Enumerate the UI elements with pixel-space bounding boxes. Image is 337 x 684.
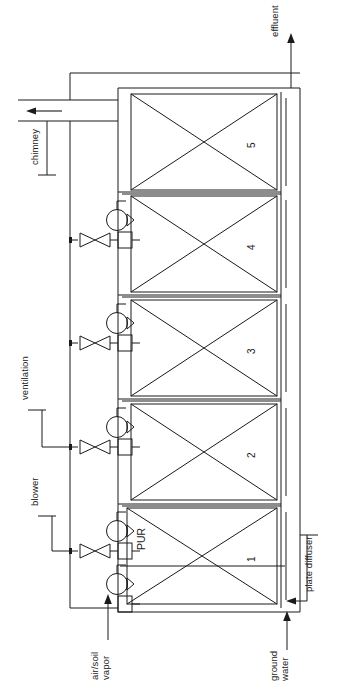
label-tank-4-number: 4 bbox=[246, 244, 257, 250]
label-effluent: effluent bbox=[269, 5, 280, 37]
label-ground-water-line2: water bbox=[279, 657, 290, 682]
header-tap-4 bbox=[69, 237, 72, 243]
label-chimney: chimney bbox=[29, 129, 40, 165]
label-tank-2-number: 2 bbox=[246, 452, 257, 458]
header-tap-3 bbox=[69, 340, 72, 346]
process-flow-diagram: effluent chimney ventilation blower air/… bbox=[0, 0, 337, 684]
label-air-soil-vapor-line1: air/soil bbox=[89, 652, 100, 680]
label-plate-diffuser: plate diffuser bbox=[303, 536, 314, 592]
label-pur: PUR bbox=[135, 527, 147, 550]
label-tank-1-number: 1 bbox=[246, 556, 257, 562]
label-ground-water-line1: ground bbox=[268, 651, 279, 681]
label-ventilation: ventilation bbox=[19, 356, 30, 400]
header-tap-2 bbox=[69, 444, 72, 450]
label-blower: blower bbox=[29, 477, 40, 506]
diagram-canvas: effluent chimney ventilation blower air/… bbox=[0, 0, 337, 684]
label-tank-3-number: 3 bbox=[246, 348, 257, 354]
label-air-soil-vapor-line2: vapor bbox=[100, 656, 111, 680]
label-tank-5-number: 5 bbox=[246, 142, 257, 148]
